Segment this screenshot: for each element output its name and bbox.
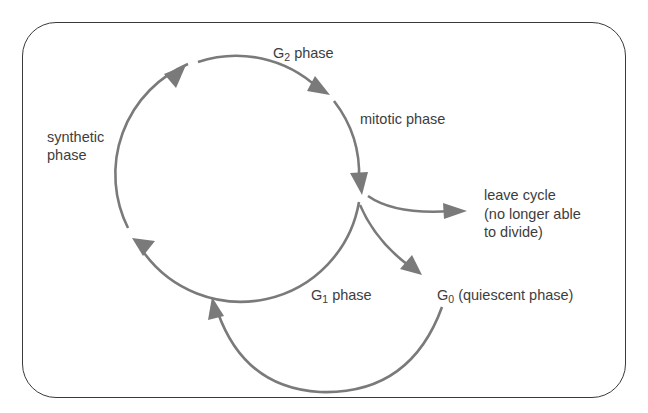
label-g2-phase: G2 phase: [273, 44, 334, 62]
label-synthetic-phase: synthetic phase: [47, 128, 104, 164]
label-g1-phase: G1 phase: [311, 286, 372, 304]
arrowhead-mitotic: [350, 172, 368, 195]
label-mitotic-phase: mitotic phase: [360, 110, 445, 128]
arrow-mitotic-phase: [334, 101, 359, 180]
arrow-leave-cycle: [368, 196, 452, 212]
arrowhead-g0: [400, 255, 422, 275]
arrow-g0-return: [218, 307, 442, 392]
arrowhead-g2: [307, 76, 330, 95]
arrowhead-synthetic: [164, 65, 186, 88]
arrowhead-leave: [443, 203, 467, 219]
arrow-synthetic-phase: [115, 64, 188, 228]
arrowhead-g1: [132, 238, 155, 256]
label-leave-cycle: leave cycle (no longer able to divide): [484, 186, 581, 242]
label-g0-phase: G0 (quiescent phase): [437, 286, 573, 304]
arrow-to-g0: [360, 205, 408, 265]
